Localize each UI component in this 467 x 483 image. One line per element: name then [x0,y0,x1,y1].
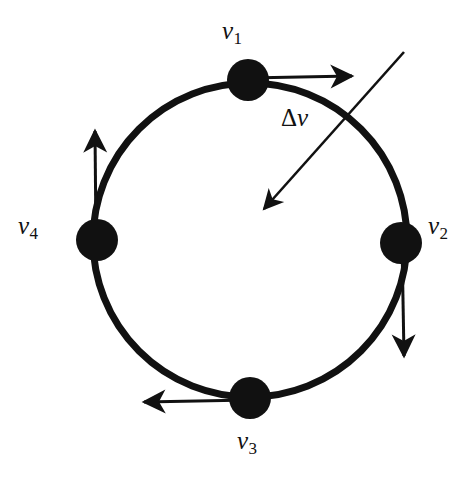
label-v2: v2 [428,213,448,242]
label-v2-subscript: 2 [439,224,448,243]
diagram-canvas [0,0,467,483]
label-v3: v3 [237,428,257,457]
label-v4-subscript: 4 [29,224,38,243]
label-v3-symbol: v [237,427,248,454]
circular-motion-diagram: v1 v2 v3 v4 Δv [0,0,467,483]
label-v1: v1 [222,18,242,47]
delta-v-symbol: v [297,104,308,131]
label-v1-subscript: 1 [233,29,242,48]
particle-node-v2 [380,222,422,264]
delta-symbol: Δ [281,104,297,131]
particle-node-v4 [76,219,118,261]
particle-node-v1 [227,59,269,101]
label-v4-symbol: v [18,212,29,239]
label-v4: v4 [18,213,38,242]
label-v2-symbol: v [428,212,439,239]
orbit-circle [93,83,407,397]
label-v1-symbol: v [222,17,233,44]
label-delta-v: Δv [281,105,308,130]
particle-node-v3 [229,377,271,419]
label-v3-subscript: 3 [248,439,257,458]
